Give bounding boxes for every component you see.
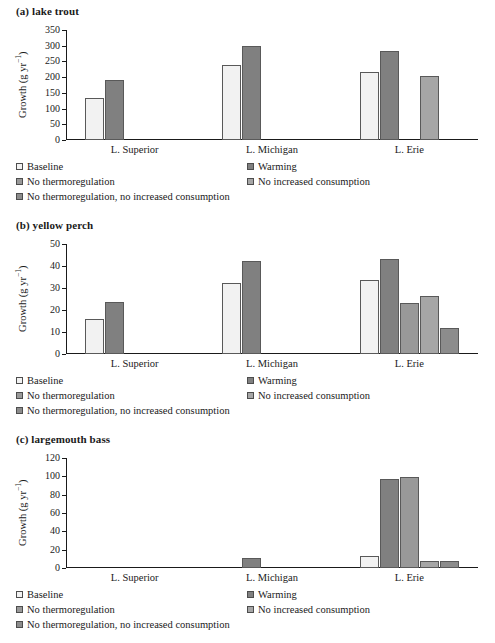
legend-label: Warming bbox=[258, 160, 297, 174]
y-tick-label: 60 bbox=[50, 508, 60, 518]
y-tick-label: 50 bbox=[50, 119, 60, 129]
bar bbox=[420, 296, 439, 354]
bar bbox=[360, 556, 379, 568]
panel-a: (a) lake trout Growth (g yr−1) 050100150… bbox=[0, 0, 495, 214]
category-label: L. Superior bbox=[66, 144, 203, 155]
legend-label: No thermoregulation bbox=[27, 389, 115, 403]
legend-label: No thermoregulation, no increased consum… bbox=[27, 618, 230, 632]
y-tick-label: 100 bbox=[45, 104, 60, 114]
bar bbox=[400, 477, 419, 568]
legend-swatch-icon bbox=[16, 392, 23, 399]
legend-item: No thermoregulation, no increased consum… bbox=[16, 190, 478, 204]
figure-growth-scenarios: (a) lake trout Growth (g yr−1) 050100150… bbox=[0, 0, 495, 643]
bar bbox=[360, 72, 379, 140]
bar-group bbox=[66, 458, 203, 568]
y-tick-label: 40 bbox=[50, 526, 60, 536]
legend-swatch-icon bbox=[247, 377, 254, 384]
panel-title: (a) lake trout bbox=[16, 5, 79, 17]
y-tick-label: 300 bbox=[45, 41, 60, 51]
legend-label: Baseline bbox=[27, 588, 63, 602]
y-tick-label: 350 bbox=[45, 25, 60, 35]
legend-label: No increased consumption bbox=[258, 389, 370, 403]
category-label: L. Erie bbox=[341, 358, 478, 369]
category-label: L. Erie bbox=[341, 572, 478, 583]
y-tick bbox=[62, 354, 66, 355]
legend-item: Warming bbox=[247, 588, 478, 602]
legend-swatch-icon bbox=[16, 193, 23, 200]
legend-item: No thermoregulation bbox=[16, 389, 247, 403]
y-tick-label: 200 bbox=[45, 72, 60, 82]
bar bbox=[420, 561, 439, 568]
bar-group bbox=[203, 244, 340, 354]
bar bbox=[222, 65, 241, 140]
bar-group bbox=[341, 458, 478, 568]
legend-label: Baseline bbox=[27, 374, 63, 388]
legend-item: No thermoregulation, no increased consum… bbox=[16, 618, 478, 632]
y-tick-label: 100 bbox=[45, 471, 60, 481]
y-tick-label: 250 bbox=[45, 56, 60, 66]
legend-item: Baseline bbox=[16, 160, 247, 174]
legend-item: No thermoregulation bbox=[16, 603, 247, 617]
bar bbox=[440, 328, 459, 354]
bar bbox=[380, 51, 399, 140]
legend-label: No thermoregulation, no increased consum… bbox=[27, 190, 230, 204]
legend-label: No thermoregulation bbox=[27, 603, 115, 617]
legend-item: No increased consumption bbox=[247, 389, 478, 403]
legend-swatch-icon bbox=[247, 392, 254, 399]
legend-item: No thermoregulation bbox=[16, 175, 247, 189]
legend: BaselineWarmingNo thermoregulationNo inc… bbox=[16, 374, 478, 419]
bar bbox=[242, 46, 261, 140]
y-tick bbox=[62, 140, 66, 141]
legend-swatch-icon bbox=[16, 621, 23, 628]
legend-label: Warming bbox=[258, 588, 297, 602]
y-tick-label: 80 bbox=[50, 490, 60, 500]
bar bbox=[105, 80, 124, 140]
y-tick-label: 150 bbox=[45, 88, 60, 98]
bar bbox=[400, 303, 419, 354]
legend-label: No thermoregulation bbox=[27, 175, 115, 189]
legend-item: Warming bbox=[247, 374, 478, 388]
bar bbox=[440, 561, 459, 568]
y-tick-label: 0 bbox=[55, 349, 60, 359]
plot-area: 050100150200250300350 bbox=[66, 30, 478, 140]
legend-swatch-icon bbox=[247, 591, 254, 598]
legend-swatch-icon bbox=[16, 606, 23, 613]
bar bbox=[222, 283, 241, 354]
legend-swatch-icon bbox=[247, 178, 254, 185]
bar-group bbox=[341, 30, 478, 140]
y-tick-label: 120 bbox=[45, 453, 60, 463]
legend: BaselineWarmingNo thermoregulationNo inc… bbox=[16, 588, 478, 633]
bar bbox=[105, 302, 124, 354]
y-axis-label: Growth (g yr−1) bbox=[14, 30, 28, 140]
bar bbox=[85, 319, 104, 354]
y-tick-label: 50 bbox=[50, 239, 60, 249]
bar bbox=[242, 261, 261, 354]
legend-label: No thermoregulation, no increased consum… bbox=[27, 404, 230, 418]
legend-label: No increased consumption bbox=[258, 175, 370, 189]
category-label: L. Michigan bbox=[203, 144, 340, 155]
legend-swatch-icon bbox=[16, 178, 23, 185]
legend-label: No increased consumption bbox=[258, 603, 370, 617]
y-axis-label: Growth (g yr−1) bbox=[14, 458, 28, 568]
bar-groups bbox=[66, 458, 478, 568]
category-label: L. Erie bbox=[341, 144, 478, 155]
panel-c: (c) largemouth bass Growth (g yr−1) 0204… bbox=[0, 428, 495, 642]
y-tick-label: 40 bbox=[50, 261, 60, 271]
legend-swatch-icon bbox=[16, 591, 23, 598]
y-tick-label: 20 bbox=[50, 545, 60, 555]
y-tick-label: 10 bbox=[50, 327, 60, 337]
bar bbox=[360, 280, 379, 354]
bar bbox=[420, 76, 439, 140]
bar-group bbox=[341, 244, 478, 354]
legend-label: Warming bbox=[258, 374, 297, 388]
bar bbox=[242, 558, 261, 568]
legend-swatch-icon bbox=[16, 163, 23, 170]
bar bbox=[380, 479, 399, 568]
y-tick-label: 20 bbox=[50, 305, 60, 315]
y-tick-label: 0 bbox=[55, 563, 60, 573]
category-label: L. Superior bbox=[66, 572, 203, 583]
bar-group bbox=[66, 30, 203, 140]
legend: BaselineWarmingNo thermoregulationNo inc… bbox=[16, 160, 478, 205]
plot-area: 01020304050 bbox=[66, 244, 478, 354]
legend-swatch-icon bbox=[16, 407, 23, 414]
